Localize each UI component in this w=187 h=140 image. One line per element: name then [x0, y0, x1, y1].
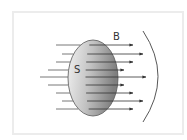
- surface-s: [68, 40, 118, 116]
- flux-diagram: B S: [0, 0, 187, 140]
- boundary-arc: [143, 31, 158, 122]
- surface-label-s: S: [74, 64, 80, 75]
- field-label-b: B: [113, 31, 120, 42]
